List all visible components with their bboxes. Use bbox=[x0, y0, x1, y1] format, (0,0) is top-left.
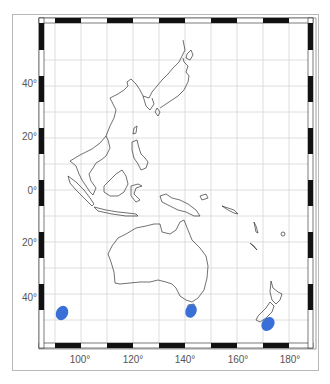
coast-java bbox=[94, 207, 138, 216]
coast-asia-mainland bbox=[70, 40, 185, 161]
marker-new-zealand-south bbox=[259, 314, 278, 333]
coast-new-caledonia bbox=[250, 243, 257, 250]
coast-nz-north bbox=[270, 281, 282, 304]
markers bbox=[53, 302, 277, 333]
map-canvas bbox=[0, 0, 330, 384]
coast-fiji bbox=[281, 232, 285, 236]
lat-label-20s: 20° bbox=[22, 237, 37, 248]
lat-label-40s: 40° bbox=[22, 292, 37, 303]
graticule bbox=[43, 23, 312, 345]
lon-label-140: 140° bbox=[175, 354, 196, 365]
lon-label-120: 120° bbox=[123, 354, 144, 365]
lon-label-100: 100° bbox=[70, 354, 91, 365]
coast-vanuatu bbox=[254, 222, 258, 233]
lat-label-20n: 20° bbox=[22, 131, 37, 142]
lat-label-0: 0° bbox=[27, 185, 37, 196]
coast-taiwan bbox=[133, 126, 137, 134]
lon-label-180: 180° bbox=[280, 354, 301, 365]
coast-new-guinea bbox=[160, 194, 200, 216]
coast-philippines bbox=[132, 140, 148, 170]
coast-borneo bbox=[104, 170, 128, 196]
lon-label-160: 160° bbox=[228, 354, 249, 365]
marker-indian-ocean bbox=[53, 304, 70, 323]
map-frame bbox=[39, 18, 316, 349]
coastlines bbox=[68, 40, 285, 322]
lat-label-40n: 40° bbox=[22, 78, 37, 89]
coast-hokkaido bbox=[186, 50, 193, 60]
marker-tasmania bbox=[183, 302, 199, 319]
coast-bismarck bbox=[200, 194, 208, 200]
coast-australia bbox=[108, 220, 208, 302]
coast-solomons bbox=[222, 206, 238, 214]
